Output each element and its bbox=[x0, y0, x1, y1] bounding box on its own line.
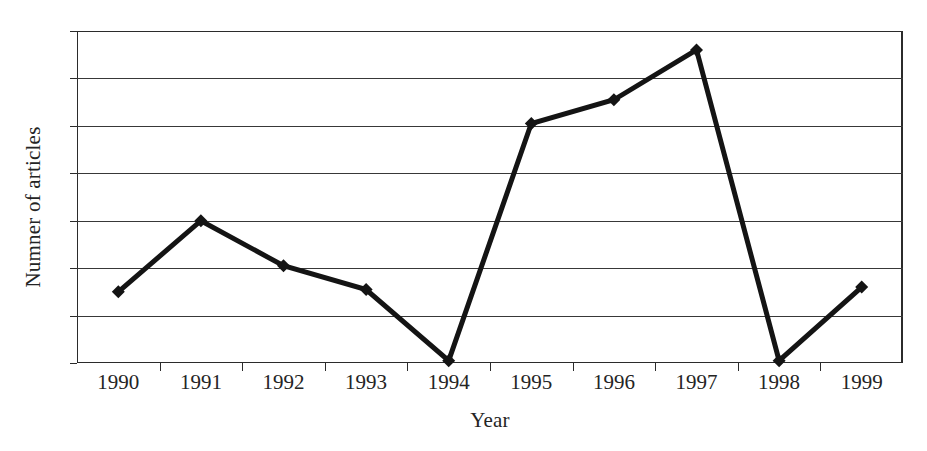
x-tick-mark bbox=[738, 363, 739, 371]
y-tick-mark bbox=[70, 221, 77, 222]
series-polyline bbox=[118, 50, 861, 361]
y-tick-mark bbox=[70, 363, 77, 364]
y-tick-mark bbox=[70, 31, 77, 32]
y-tick-mark bbox=[70, 316, 77, 317]
x-tick-mark bbox=[325, 363, 326, 371]
plot-area: 02468101214 bbox=[77, 31, 903, 363]
line-chart-figure: Numner of articles 02468101214 199019911… bbox=[0, 0, 927, 451]
y-tick-mark bbox=[70, 173, 77, 174]
x-tick-mark bbox=[490, 363, 491, 371]
x-tick-label: 1999 bbox=[807, 372, 917, 393]
y-tick-mark bbox=[70, 78, 77, 79]
y-tick-mark bbox=[70, 268, 77, 269]
data-point-marker bbox=[525, 117, 538, 130]
y-axis-title: Numner of articles bbox=[16, 37, 50, 377]
x-tick-mark bbox=[573, 363, 574, 371]
x-tick-mark bbox=[655, 363, 656, 371]
x-tick-mark bbox=[160, 363, 161, 371]
data-series-line bbox=[77, 31, 903, 363]
x-axis-title: Year bbox=[77, 408, 903, 433]
x-tick-mark bbox=[407, 363, 408, 371]
x-tick-mark bbox=[820, 363, 821, 371]
y-tick-mark bbox=[70, 126, 77, 127]
x-tick-mark bbox=[242, 363, 243, 371]
